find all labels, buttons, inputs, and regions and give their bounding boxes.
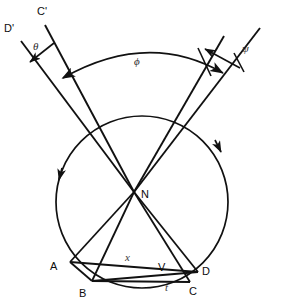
chord-a-b bbox=[70, 262, 92, 281]
circle-direction-arrow-right bbox=[215, 140, 221, 152]
figure-caption bbox=[0, 293, 282, 306]
chord-b-c bbox=[92, 281, 190, 282]
chord-b-d bbox=[92, 272, 198, 281]
ray-dprime-to-n bbox=[21, 41, 134, 192]
label-segment-x: x bbox=[124, 251, 130, 263]
label-point-dprime: D' bbox=[4, 22, 14, 34]
phi-angle-arc bbox=[63, 53, 223, 78]
label-point-d: D bbox=[202, 265, 210, 277]
label-angle-theta: θ bbox=[33, 40, 39, 52]
figure-container: C' D' θ ϕ ψ N A B C D V x t bbox=[0, 0, 282, 306]
label-angle-phi: ϕ bbox=[134, 55, 140, 67]
label-segment-t: t bbox=[165, 281, 169, 293]
ray-n-to-upper-right-1 bbox=[134, 36, 224, 192]
label-point-v: V bbox=[158, 261, 166, 273]
label-angle-psi: ψ bbox=[242, 42, 249, 54]
label-point-cprime: C' bbox=[37, 5, 47, 17]
ray-cprime-to-n bbox=[45, 25, 134, 192]
geometry-diagram: C' D' θ ϕ ψ N A B C D V x t bbox=[0, 0, 282, 306]
label-point-a: A bbox=[50, 260, 58, 272]
chord-n-b bbox=[92, 192, 134, 281]
label-point-n: N bbox=[141, 188, 149, 200]
chord-n-d bbox=[134, 192, 198, 272]
